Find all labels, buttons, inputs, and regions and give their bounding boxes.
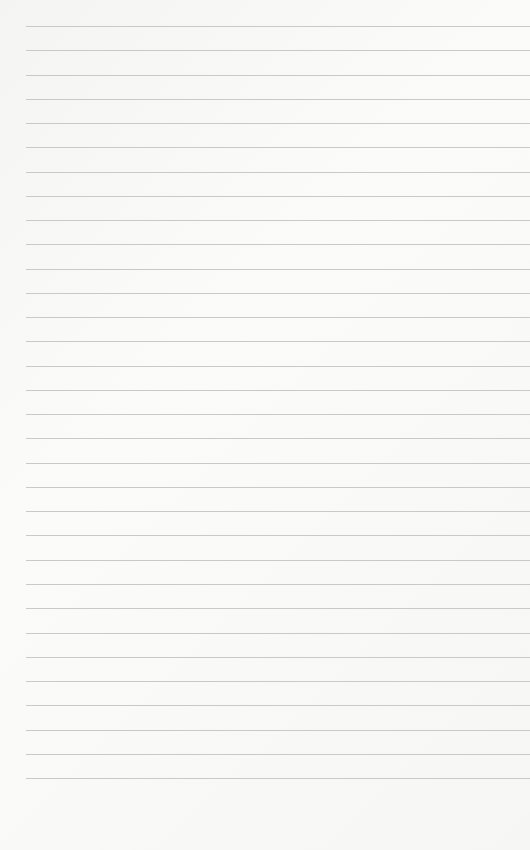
ruled-line [26,487,530,488]
ruled-line [26,560,530,561]
ruled-line [26,463,530,464]
ruled-line [26,196,530,197]
ruled-line [26,390,530,391]
ruled-line [26,75,530,76]
ruled-line [26,511,530,512]
ruled-line [26,99,530,100]
ruled-line [26,172,530,173]
ruled-line [26,535,530,536]
ruled-line [26,778,530,779]
ruled-line [26,244,530,245]
ruled-line [26,438,530,439]
ruled-line [26,657,530,658]
ruled-line [26,730,530,731]
ruled-line [26,633,530,634]
ruled-line [26,50,530,51]
ruled-line [26,123,530,124]
ruled-line [26,341,530,342]
ruled-line [26,608,530,609]
ruled-line [26,754,530,755]
ruled-line [26,414,530,415]
ruled-line [26,269,530,270]
ruled-line [26,584,530,585]
ruled-line [26,147,530,148]
ruled-line [26,366,530,367]
ruled-line [26,705,530,706]
ruled-line [26,26,530,27]
ruled-line [26,317,530,318]
ruled-line [26,220,530,221]
lined-paper [0,0,530,850]
ruled-line [26,681,530,682]
ruled-line [26,293,530,294]
